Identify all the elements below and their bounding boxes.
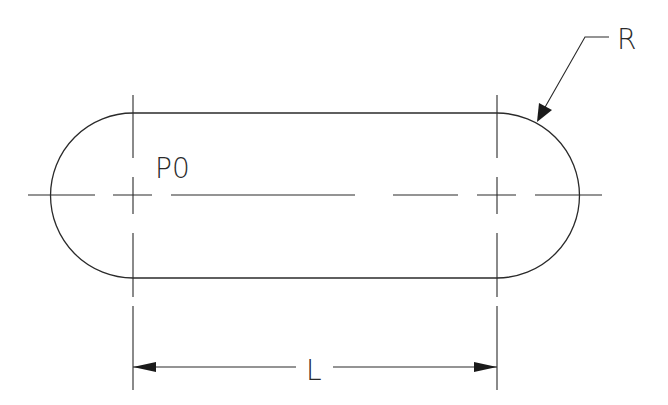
slot-drawing: L R P0	[0, 0, 668, 405]
leader-line	[544, 37, 609, 109]
arrowhead-right-icon	[474, 362, 497, 372]
arrowhead-left-icon	[133, 362, 156, 372]
length-dimension: L	[133, 354, 497, 387]
point-label: P0	[155, 152, 190, 185]
radius-label: R	[617, 23, 636, 56]
length-label: L	[306, 354, 322, 387]
radius-leader: R	[537, 23, 636, 122]
leader-arrowhead-icon	[537, 103, 552, 122]
